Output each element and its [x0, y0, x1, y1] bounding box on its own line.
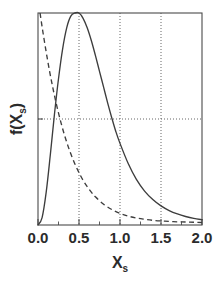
x-tick-label-1: 0.5: [69, 229, 90, 246]
y-axis-title-prefix: f(X: [8, 113, 25, 135]
x-axis-ticks: [38, 219, 202, 225]
x-tick-label-0: 0.0: [28, 229, 49, 246]
x-tick-label-3: 1.5: [151, 229, 172, 246]
x-axis-title-main: X: [112, 254, 123, 271]
x-tick-labels: 0.0 0.5 1.0 1.5 2.0: [28, 229, 213, 246]
x-axis-title: Xs: [112, 254, 129, 274]
gridlines: [38, 13, 202, 225]
y-axis-title: f(Xs): [8, 103, 28, 135]
x-axis-title-sub: s: [123, 263, 129, 274]
x-tick-label-2: 1.0: [110, 229, 131, 246]
x-tick-label-4: 2.0: [192, 229, 213, 246]
figure-container: 0.0 0.5 1.0 1.5 2.0 Xs f(Xs): [0, 0, 220, 282]
distribution-plot: 0.0 0.5 1.0 1.5 2.0 Xs f(Xs): [0, 0, 220, 282]
dashed-curve: [40, 13, 202, 222]
y-axis-title-suffix: ): [8, 103, 25, 108]
